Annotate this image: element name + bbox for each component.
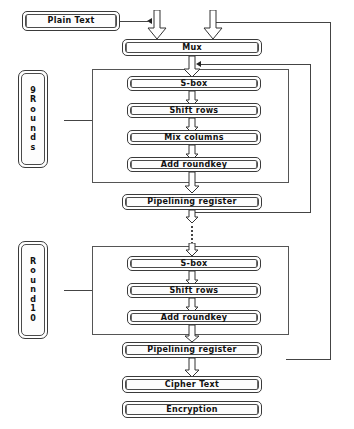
aes-encryption-diagram: Plain Text Mux 9 R o u n d xyxy=(0,0,354,429)
add-roundkey-2-label: Add roundkey xyxy=(161,314,227,322)
encryption-label: Encryption xyxy=(166,406,218,414)
round-ten-char-4: d xyxy=(30,295,36,304)
round-ten-inner: R o u n d 1 0 xyxy=(21,244,45,336)
block-arrow-addroundkey2-to-pipeline2 xyxy=(184,325,200,343)
sbox-1-label: S-box xyxy=(181,80,208,88)
pipelining-register-2-inner: Pipelining register xyxy=(125,345,259,355)
add-roundkey-1-inner: Add roundkey xyxy=(130,160,258,169)
add-roundkey-1-label: Add roundkey xyxy=(161,161,227,169)
nine-rounds-inner: 9 R o u n d s xyxy=(21,73,45,165)
shift-rows-1-label: Shift rows xyxy=(170,107,219,115)
add-roundkey-2-inner: Add roundkey xyxy=(130,313,258,322)
feedback-inner-right xyxy=(310,64,311,213)
plain-text-label: Plain Text xyxy=(47,17,94,25)
nine-rounds-char-4: n xyxy=(30,124,36,133)
round-ten-char-3: n xyxy=(30,285,36,294)
feedback-outer-bottom xyxy=(286,359,331,360)
mux-inner: Mux xyxy=(125,42,259,53)
block-arrow-pipeline2-to-ciphertext xyxy=(184,358,200,378)
feedback-outer-top xyxy=(214,22,331,23)
mix-columns-1-box[interactable]: Mix columns xyxy=(127,130,261,145)
round-ten-char-2: u xyxy=(30,276,36,285)
block-arrow-addroundkey1-to-pipeline1 xyxy=(184,172,200,194)
round-ten-label-box: R o u n d 1 0 xyxy=(18,241,48,339)
nine-rounds-label-box: 9 R o u n d s xyxy=(18,70,48,168)
pipelining-register-1-inner: Pipelining register xyxy=(125,197,259,207)
nine-rounds-char-0: 9 xyxy=(30,86,36,95)
mix-columns-1-label: Mix columns xyxy=(164,134,223,142)
sbox-2-label: S-box xyxy=(181,260,208,268)
cipher-text-label: Cipher Text xyxy=(165,381,219,389)
block-arrow-pipeline1-down xyxy=(185,210,199,224)
cipher-text-inner: Cipher Text xyxy=(125,379,259,390)
encryption-inner: Encryption xyxy=(125,404,259,415)
feedback-outer-right xyxy=(330,22,331,360)
nine-rounds-char-6: s xyxy=(31,143,36,152)
shift-rows-1-inner: Shift rows xyxy=(130,106,258,115)
pipelining-register-2-box[interactable]: Pipelining register xyxy=(122,342,262,358)
add-roundkey-1-box[interactable]: Add roundkey xyxy=(127,157,261,172)
pipelining-register-2-label: Pipelining register xyxy=(147,346,236,354)
plain-text-box[interactable]: Plain Text xyxy=(22,11,120,31)
sbox-2-box[interactable]: S-box xyxy=(127,256,261,271)
block-arrow-mux-to-sbox xyxy=(183,56,201,78)
block-arrow-plaintext-to-mux xyxy=(147,10,167,40)
plain-text-inner: Plain Text xyxy=(25,14,117,28)
round-ten-char-6: 0 xyxy=(30,314,36,323)
encryption-box[interactable]: Encryption xyxy=(122,401,262,418)
feedback-inner-bottom xyxy=(192,212,311,213)
block-arrow-dotted-to-round10 xyxy=(185,243,199,257)
round-ten-char-5: 1 xyxy=(30,304,36,313)
shift-rows-2-label: Shift rows xyxy=(170,287,219,295)
pipelining-register-1-label: Pipelining register xyxy=(147,198,236,206)
plain-text-to-mux-line xyxy=(120,21,148,22)
rounds-ellipsis-dotted-line xyxy=(191,226,193,244)
mux-box[interactable]: Mux xyxy=(122,39,262,56)
nine-rounds-connector xyxy=(64,120,92,121)
nine-rounds-char-1: R xyxy=(30,95,36,104)
sbox-1-box[interactable]: S-box xyxy=(127,76,261,91)
mux-label: Mux xyxy=(182,44,202,52)
shift-rows-2-box[interactable]: Shift rows xyxy=(127,283,261,298)
feedback-inner-top xyxy=(200,64,311,65)
sbox-1-inner: S-box xyxy=(130,79,258,88)
pipelining-register-1-box[interactable]: Pipelining register xyxy=(122,194,262,210)
block-arrow-feedback-to-mux xyxy=(203,10,223,40)
sbox-2-inner: S-box xyxy=(130,259,258,268)
add-roundkey-2-box[interactable]: Add roundkey xyxy=(127,310,261,325)
shift-rows-1-box[interactable]: Shift rows xyxy=(127,103,261,118)
round-ten-char-1: o xyxy=(30,266,36,275)
round-ten-char-0: R xyxy=(30,257,36,266)
mix-columns-1-inner: Mix columns xyxy=(130,133,258,142)
nine-rounds-char-2: o xyxy=(30,105,36,114)
shift-rows-2-inner: Shift rows xyxy=(130,286,258,295)
cipher-text-box[interactable]: Cipher Text xyxy=(122,376,262,393)
nine-rounds-char-3: u xyxy=(30,114,36,123)
round-ten-connector xyxy=(64,290,92,291)
nine-rounds-char-5: d xyxy=(30,133,36,142)
